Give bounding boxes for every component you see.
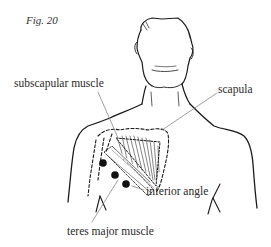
point-marker-3 [122,180,130,188]
label-scapula: scapula [218,84,252,96]
spine-marker [208,184,220,214]
leader-inferior-angle [132,186,144,190]
point-markers [99,159,130,188]
axilla-marker [96,196,106,212]
leader-scapula [162,93,217,130]
leader-teres-major [92,180,118,222]
anatomy-figure: Fig. 20 subscapular muscle scapula infer… [0,0,271,247]
point-marker-1 [99,159,107,167]
label-teres-major-muscle: teres major muscle [67,226,154,238]
head-outline [135,18,194,106]
figure-label: Fig. 20 [26,14,58,26]
point-marker-2 [111,171,119,179]
label-inferior-angle: inferior angle [146,186,208,198]
leader-subscapular [98,92,118,138]
label-subscapular-muscle: subscapular muscle [14,78,104,90]
torso-illustration [0,0,271,247]
scapula-border [116,138,160,186]
